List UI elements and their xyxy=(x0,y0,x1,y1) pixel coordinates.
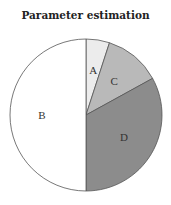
slice-label-a: A xyxy=(89,64,97,76)
slice-label-c: C xyxy=(110,75,117,87)
pie-chart: ACDB xyxy=(0,0,171,205)
slice-label-b: B xyxy=(38,109,45,121)
slice-label-d: D xyxy=(120,131,128,143)
pie-slice-b xyxy=(10,39,86,191)
